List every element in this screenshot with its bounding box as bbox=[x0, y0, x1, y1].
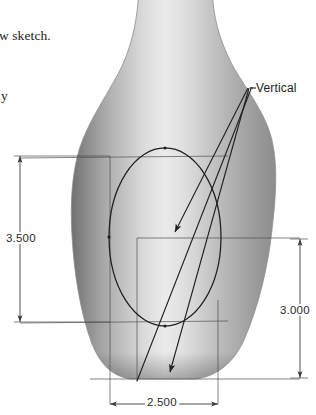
vase-bottom-shadow bbox=[60, 352, 300, 382]
drawing-page: new sketch. ely Vertical 3.500 3.000 2.5… bbox=[0, 0, 316, 415]
document-text-line-1: new sketch. bbox=[0, 28, 51, 44]
cad-drawing-canvas bbox=[0, 0, 316, 415]
dimension-value-right[interactable]: 3.000 bbox=[278, 304, 312, 316]
ellipse-node-top[interactable] bbox=[163, 146, 166, 149]
ellipse-node-left[interactable] bbox=[107, 235, 110, 238]
dimension-value-left[interactable]: 3.500 bbox=[4, 232, 38, 244]
dimension-value-bottom[interactable]: 2.500 bbox=[145, 396, 179, 408]
vertical-constraint-label[interactable]: Vertical bbox=[256, 81, 297, 95]
vase-solid bbox=[60, 0, 300, 382]
document-text-line-2: ely bbox=[0, 88, 8, 104]
ellipse-node-bottom[interactable] bbox=[163, 324, 166, 327]
